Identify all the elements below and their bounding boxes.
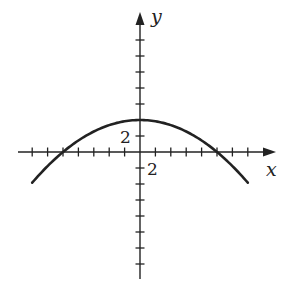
y-axis-label: y (150, 5, 162, 27)
x-tick-label: 2 (147, 159, 158, 179)
x-axis-arrow-icon (263, 148, 276, 157)
y-tick-label: 2 (120, 127, 131, 147)
x-axis-label: x (266, 158, 277, 180)
y-axis-arrow-icon (136, 12, 145, 25)
parabola-plot: x y 2 2 (0, 0, 291, 292)
